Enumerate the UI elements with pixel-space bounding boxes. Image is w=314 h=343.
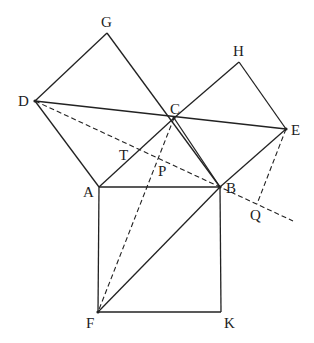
point-label-G: G [101,14,112,30]
point-labels: GHDCETPABQFK [18,14,300,331]
vertex-dot-B [218,185,221,188]
point-label-P: P [158,163,166,179]
point-label-E: E [291,122,300,138]
segment-CH [174,62,239,118]
dashed-segment-EQ [257,129,286,204]
point-label-D: D [18,93,29,109]
segment-AD [35,101,99,187]
dashed-segment-CF [98,118,174,312]
point-label-F: F [86,315,94,331]
segment-FB [98,187,220,312]
vertex-dot-F [96,310,99,313]
segment-DG [35,33,107,101]
point-label-K: K [224,315,235,331]
point-label-H: H [233,43,244,59]
dashed-segment-DB [35,101,293,221]
point-label-A: A [83,184,94,200]
segment-EB [220,129,286,187]
segment-KB [220,187,221,312]
vertex-dot-D [33,99,36,102]
segment-HE [239,62,286,129]
point-label-Q: Q [250,207,261,223]
geometry-diagram: GHDCETPABQFK [0,0,314,343]
segment-AF [98,187,99,312]
point-label-C: C [170,101,180,117]
point-label-B: B [226,180,236,196]
point-label-T: T [119,147,128,163]
vertex-dot-E [284,127,287,130]
